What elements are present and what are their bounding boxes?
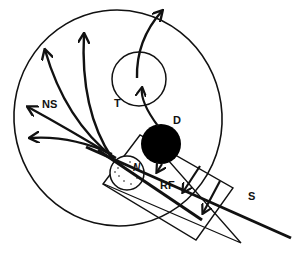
t-arrow: [142, 88, 158, 126]
label-rf: RF: [160, 180, 175, 191]
label-n: N: [133, 163, 140, 173]
label-d: D: [173, 115, 181, 126]
diagram-svg: [0, 0, 298, 253]
label-ns: NS: [42, 99, 57, 110]
label-t: T: [114, 98, 121, 109]
perp-arrow-2: [203, 181, 220, 213]
diagram-canvas: NS T D N RF S: [0, 0, 298, 253]
ns-arrows: [28, 34, 116, 158]
label-s: S: [248, 191, 255, 202]
outer-ellipse: [0, 0, 236, 239]
d-arrow: [157, 164, 162, 172]
circle-d: [141, 124, 181, 164]
t-up-arrow: [137, 11, 162, 78]
